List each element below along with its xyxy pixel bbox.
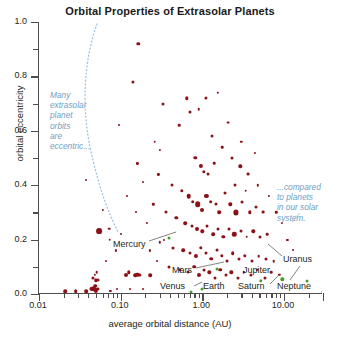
- data-point: [239, 230, 242, 233]
- data-point: [225, 260, 228, 263]
- eccentric-annotation-line: planet: [50, 110, 96, 120]
- data-point: [167, 236, 170, 239]
- solar-system-annotation-line: to planets: [277, 192, 337, 202]
- data-point: [203, 268, 206, 271]
- data-point: [273, 260, 276, 263]
- y-tick-minor: [33, 267, 39, 268]
- data-point: [233, 184, 236, 187]
- data-point: [257, 255, 260, 258]
- data-point: [184, 221, 188, 225]
- data-point: [259, 235, 262, 238]
- x-tick-minor: [190, 293, 191, 298]
- x-tick-label: 0.10: [97, 300, 143, 310]
- y-tick-minor: [33, 104, 39, 105]
- data-point: [207, 173, 210, 176]
- y-tick: [31, 131, 39, 132]
- data-point: [270, 271, 273, 274]
- data-point: [97, 229, 103, 235]
- x-tick-minor: [145, 293, 146, 298]
- data-point: [208, 271, 211, 274]
- x-tick-minor: [227, 293, 228, 298]
- data-point: [115, 249, 117, 251]
- data-point: [197, 108, 200, 111]
- data-point: [244, 189, 247, 192]
- data-point: [163, 239, 165, 241]
- data-point: [246, 173, 249, 176]
- eccentric-annotation-line: are: [50, 131, 96, 141]
- data-point: [124, 273, 128, 277]
- solar-system-annotation-line: in our solar: [277, 202, 337, 212]
- y-tick-label: 1.0: [0, 16, 27, 26]
- data-point: [137, 42, 140, 45]
- data-point: [216, 227, 219, 230]
- data-point: [195, 227, 199, 231]
- data-point: [142, 288, 144, 290]
- data-point: [221, 146, 224, 149]
- data-point: [199, 246, 202, 249]
- x-tick-minor: [276, 293, 277, 298]
- data-point: [200, 208, 204, 212]
- data-point: [204, 194, 208, 198]
- x-tick-minor: [252, 293, 253, 298]
- data-point: [131, 80, 134, 83]
- data-point: [209, 257, 213, 261]
- data-point: [95, 271, 98, 274]
- x-tick-minor: [88, 293, 89, 298]
- data-point: [255, 205, 258, 208]
- data-point: [108, 227, 111, 230]
- data-point: [245, 236, 248, 239]
- data-point: [210, 135, 213, 138]
- eccentric-annotation-line: extrasolar: [50, 100, 96, 110]
- x-tick-minor: [280, 293, 281, 298]
- data-point: [101, 209, 103, 211]
- data-point: [167, 265, 170, 268]
- data-point: [181, 249, 185, 253]
- y-tick-minor: [33, 49, 39, 50]
- label-jupiter: Jupiter: [243, 265, 270, 275]
- data-point: [120, 233, 122, 235]
- data-point: [185, 96, 188, 99]
- x-tick-minor: [271, 293, 272, 298]
- data-point: [105, 260, 107, 262]
- data-point: [162, 102, 165, 105]
- x-tick-minor: [117, 293, 118, 298]
- x-axis-label: average orbital distance (AU): [0, 318, 340, 329]
- data-point: [250, 260, 253, 263]
- x-tick-minor: [178, 293, 179, 298]
- data-point: [238, 164, 241, 167]
- data-point: [266, 233, 269, 236]
- data-point: [286, 239, 288, 241]
- chart-container: Orbital Properties of Extrasolar Planets…: [0, 0, 340, 345]
- label-neptune: Neptune: [277, 281, 311, 291]
- x-tick-minor: [266, 293, 267, 298]
- data-point: [204, 97, 207, 100]
- data-point: [215, 249, 218, 252]
- data-point: [165, 211, 168, 214]
- x-tick-minor: [96, 293, 97, 298]
- data-point: [268, 195, 270, 197]
- x-tick-minor: [108, 293, 109, 298]
- data-point: [135, 211, 137, 213]
- x-tick-minor: [199, 293, 200, 298]
- data-point: [263, 276, 266, 279]
- solar-system-annotation: ...comparedto planetsin our solarsystem.: [277, 182, 337, 223]
- data-point: [96, 287, 99, 290]
- data-point: [213, 276, 216, 279]
- data-point: [234, 210, 239, 215]
- x-tick-label: 10.00: [260, 300, 306, 310]
- data-point: [159, 149, 161, 151]
- data-point: [252, 230, 255, 233]
- data-point: [218, 268, 222, 272]
- data-point: [222, 235, 225, 238]
- data-point: [97, 279, 100, 282]
- data-point: [264, 257, 267, 260]
- data-point: [188, 110, 191, 113]
- y-tick-label: 0.4: [0, 179, 27, 189]
- data-point: [262, 211, 265, 214]
- data-point: [138, 273, 141, 276]
- eccentric-annotation-line: orbits: [50, 121, 96, 131]
- solar-system-annotation-line: ...compared: [277, 182, 337, 192]
- data-point: [85, 179, 87, 181]
- data-point: [108, 238, 111, 241]
- y-tick: [31, 240, 39, 241]
